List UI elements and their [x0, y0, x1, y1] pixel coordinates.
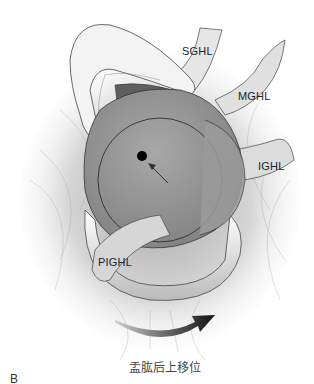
pighl-label: PIGHL [98, 256, 132, 268]
mghl-label: MGHL [238, 90, 271, 102]
shoulder-anatomy-illustration: SGHL MGHL IGHL PIGHL 盂肱后上移位 B [0, 0, 314, 384]
panel-letter: B [10, 372, 18, 384]
sghl-label: SGHL [182, 45, 213, 57]
figure-caption: 盂肱后上移位 [129, 358, 201, 375]
ighl-label: IGHL [258, 160, 284, 172]
anatomy-drawing [0, 0, 314, 384]
